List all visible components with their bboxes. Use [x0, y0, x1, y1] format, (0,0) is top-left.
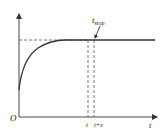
tick-label-t: t — [86, 121, 89, 129]
tstop-label: tstop — [92, 15, 105, 26]
tstop-label-sub: stop — [95, 20, 105, 26]
origin-label: O — [10, 113, 17, 123]
x-axis-label: t — [149, 121, 152, 130]
tstop-arrow — [95, 26, 100, 38]
saturating-curve — [19, 40, 155, 90]
tick-label-t-eps: t+ε — [94, 121, 103, 128]
diagram-figure: tstop O t t+ε t — [0, 0, 168, 135]
